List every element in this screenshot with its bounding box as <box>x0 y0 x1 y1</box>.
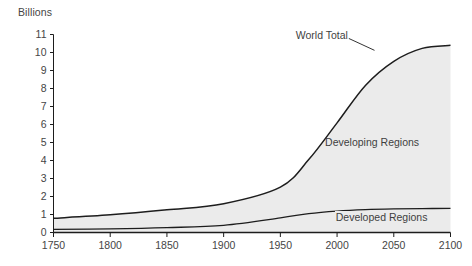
x-axis-tick-label: 1850 <box>144 239 190 251</box>
y-axis-tick-label: 4 <box>21 154 47 166</box>
chart-plot-area <box>0 0 472 266</box>
y-axis-tick-label: 1 <box>21 208 47 220</box>
y-axis-tick-label: 7 <box>21 100 47 112</box>
x-axis-tick-label: 1900 <box>201 239 247 251</box>
y-axis-tick-label: 8 <box>21 82 47 94</box>
y-axis-tick-label: 11 <box>21 28 47 40</box>
y-axis-tick-label: 3 <box>21 172 47 184</box>
y-axis-unit-label: Billions <box>18 6 52 18</box>
x-axis-tick-label: 1750 <box>31 239 77 251</box>
world-total-leader-line <box>349 38 375 50</box>
series-label-developed-regions: Developed Regions <box>335 211 429 223</box>
x-axis-tick-label: 2100 <box>428 239 472 251</box>
y-axis-tick-label: 0 <box>21 226 47 238</box>
x-axis-tick-label: 1800 <box>87 239 133 251</box>
y-axis-tick-label: 6 <box>21 118 47 130</box>
y-axis-tick-label: 2 <box>21 190 47 202</box>
x-axis-tick-label: 1950 <box>257 239 303 251</box>
population-area-chart: Billions 01234567891011 1750180018501900… <box>0 0 472 266</box>
x-axis-tick-label: 2000 <box>314 239 360 251</box>
y-axis-tick-label: 10 <box>21 46 47 58</box>
y-axis-tick-label: 5 <box>21 136 47 148</box>
y-axis-tick-label: 9 <box>21 64 47 76</box>
x-axis-tick-label: 2050 <box>371 239 417 251</box>
series-label-world-total: World Total <box>296 29 348 41</box>
series-label-developing-regions: Developing Regions <box>325 136 419 148</box>
annotation-leader-line-layer <box>349 38 375 50</box>
